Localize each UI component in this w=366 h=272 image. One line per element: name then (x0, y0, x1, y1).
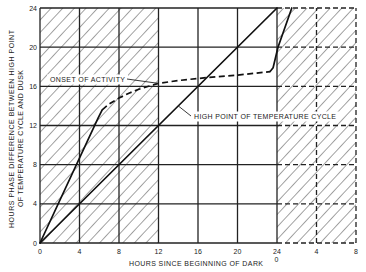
x-tick-label: 16 (194, 248, 202, 255)
x-tick-label: 0 (38, 248, 42, 255)
phase-difference-chart: ONSET OF ACTIVITYHIGH POINT OF TEMPERATU… (0, 0, 366, 272)
figure: ONSET OF ACTIVITYHIGH POINT OF TEMPERATU… (0, 0, 366, 272)
y-tick-label: 4 (33, 200, 37, 207)
y-tick-label: 16 (29, 83, 37, 90)
y-axis-label-line: OF TEMPERATURE CYCLE AND DUSK (17, 70, 24, 207)
x-tick-label: 4 (315, 248, 319, 255)
y-tick-label: 8 (33, 161, 37, 168)
x-tick-label: 12 (155, 248, 163, 255)
annotation-leader-line (178, 106, 191, 116)
y-tick-label: 12 (29, 122, 37, 129)
y-tick-label: 0 (33, 240, 37, 247)
x-tick-sublabel: 0 (275, 256, 279, 263)
x-axis-label: HOURS SINCE BEGINNING OF DARK (129, 260, 263, 267)
x-tick-label: 4 (78, 248, 82, 255)
y-axis-label-line: HOURS PHASE DIFFERENCE BETWEEN HIGH POIN… (8, 29, 15, 228)
y-tick-labels: 04812162024 (29, 5, 37, 247)
annotation-label: HIGH POINT OF TEMPERATURE CYCLE (194, 113, 336, 120)
x-tick-label: 20 (234, 248, 242, 255)
x-tick-label: 24 (273, 248, 281, 255)
x-tick-label: 8 (354, 248, 358, 255)
y-tick-label: 24 (29, 5, 37, 12)
annotation-label: ONSET OF ACTIVITY (50, 76, 125, 83)
y-tick-label: 20 (29, 44, 37, 51)
x-tick-label: 8 (117, 248, 121, 255)
